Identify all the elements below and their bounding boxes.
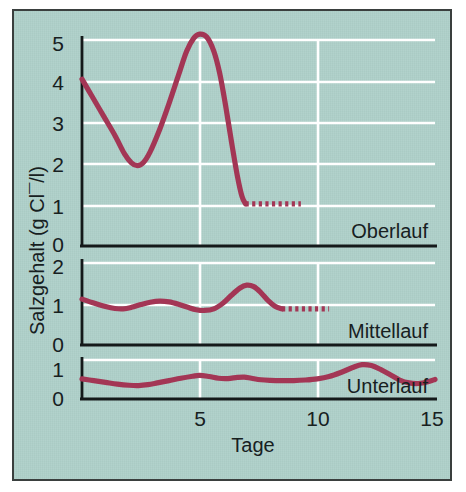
- panel-mittellauf-gridlines: [82, 263, 435, 305]
- panel-unterlauf-ytick-1: 1: [52, 358, 64, 381]
- panel-oberlauf-ytick-2: 2: [52, 153, 64, 176]
- panel-mittellauf-ytick-1: 1: [52, 294, 64, 317]
- panel-label-unterlauf: Unterlauf: [347, 375, 429, 397]
- x-tick-10: 10: [306, 407, 329, 430]
- salinity-multi-panel-chart: Salzgehalt (g Cl¯/l): [0, 0, 466, 492]
- panel-mittellauf-ytick-0: 0: [52, 333, 64, 356]
- panel-label-oberlauf: Oberlauf: [351, 220, 428, 242]
- panel-oberlauf-ytick-3: 3: [52, 112, 64, 135]
- panel-oberlauf-ytick-1: 1: [52, 195, 64, 218]
- panel-mittellauf-ytick-2: 2: [52, 255, 64, 278]
- panel-unterlauf: 1 0 Unterlauf: [52, 357, 437, 410]
- panel-mittellauf: 2 1 0 Mittellauf: [52, 255, 437, 356]
- panel-oberlauf-ytick-4: 4: [52, 71, 64, 94]
- panel-mittellauf-series-solid: [82, 285, 282, 310]
- x-tick-15: 15: [420, 407, 443, 430]
- panel-oberlauf: 5 4 3 2 1 0 Oberlauf: [52, 32, 437, 256]
- y-axis-title: Salzgehalt (g Cl¯/l): [26, 166, 48, 335]
- panel-unterlauf-ytick-0: 0: [52, 387, 64, 410]
- panel-oberlauf-ytick-0: 0: [52, 233, 64, 256]
- panel-oberlauf-series-solid: [82, 34, 246, 204]
- x-tick-5: 5: [194, 407, 206, 430]
- figure-root: Salzgehalt (g Cl¯/l): [0, 0, 466, 492]
- x-axis-title: Tage: [231, 434, 274, 456]
- panel-oberlauf-gridlines: [82, 40, 435, 206]
- panel-label-mittellauf: Mittellauf: [348, 320, 428, 342]
- chart-svg-container: Salzgehalt (g Cl¯/l): [0, 0, 466, 492]
- x-axis-tick-labels: 5 10 15: [194, 407, 444, 430]
- panel-oberlauf-ytick-5: 5: [52, 32, 64, 55]
